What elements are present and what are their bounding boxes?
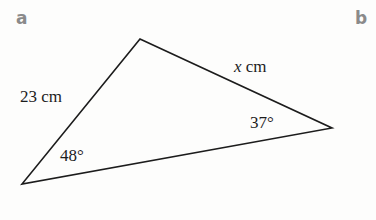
unit-cm: cm xyxy=(242,57,267,76)
variable-x: x xyxy=(234,57,242,76)
side-length-label-x: x cm xyxy=(234,58,267,75)
angle-label-48: 48° xyxy=(60,147,84,164)
triangle-diagram xyxy=(0,0,376,220)
angle-label-37: 37° xyxy=(250,114,274,131)
side-length-label-23cm: 23 cm xyxy=(20,88,62,105)
